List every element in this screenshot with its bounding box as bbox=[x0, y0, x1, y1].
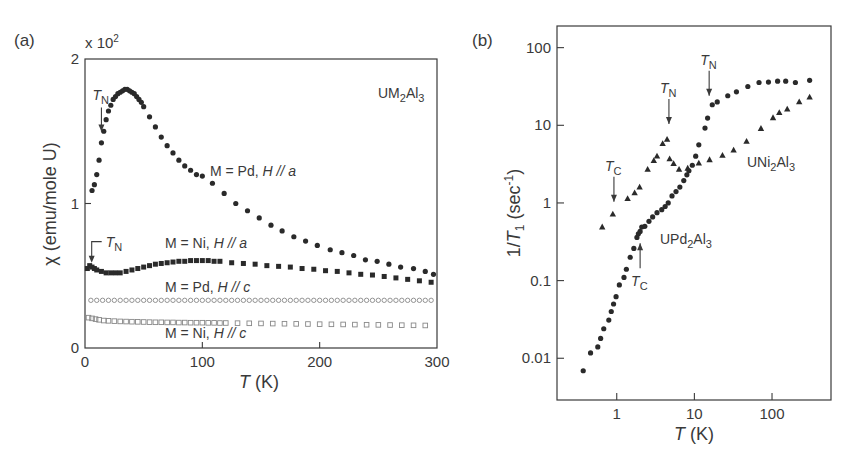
annotation-arrow bbox=[611, 177, 617, 202]
data-point bbox=[108, 103, 113, 108]
upd2al3-base: UPd bbox=[660, 231, 687, 247]
annotation-arrow-head bbox=[666, 117, 672, 124]
series-open-square bbox=[86, 315, 427, 327]
data-point bbox=[696, 142, 701, 147]
data-point bbox=[212, 298, 216, 302]
data-point bbox=[617, 282, 622, 287]
data-point bbox=[206, 258, 211, 263]
data-point bbox=[382, 298, 386, 302]
data-point bbox=[328, 247, 333, 252]
x-tick-label: 300 bbox=[424, 353, 449, 370]
uni2al3-sub2: 3 bbox=[789, 161, 795, 173]
data-point bbox=[218, 298, 222, 302]
data-point bbox=[113, 270, 118, 275]
series-label-pd-c-ital: H // c bbox=[218, 279, 251, 295]
data-point bbox=[423, 323, 428, 328]
annotation-label-sub: C bbox=[640, 280, 648, 292]
compound-mid: Al bbox=[406, 85, 418, 101]
panel-b-ylabel-pre: 1/ bbox=[504, 242, 524, 257]
series-label-ni-c-ital: H // c bbox=[214, 325, 247, 341]
data-point bbox=[681, 178, 686, 183]
series-label-uni2al3: UNi2Al3 bbox=[747, 154, 795, 173]
panel-a-points bbox=[85, 87, 436, 328]
data-point bbox=[621, 275, 626, 280]
data-point bbox=[294, 298, 298, 302]
data-point bbox=[624, 267, 629, 272]
data-point bbox=[188, 258, 193, 263]
data-point bbox=[153, 124, 158, 129]
data-point bbox=[270, 321, 275, 326]
annotation-arrow bbox=[706, 71, 712, 96]
data-point bbox=[177, 298, 181, 302]
data-point bbox=[783, 79, 788, 84]
data-point bbox=[303, 238, 308, 243]
data-point bbox=[375, 259, 380, 264]
data-point bbox=[101, 318, 106, 323]
data-point bbox=[312, 298, 316, 302]
data-point bbox=[94, 172, 99, 177]
y-tick-label: 1 bbox=[71, 195, 79, 212]
data-point bbox=[650, 214, 655, 219]
data-point bbox=[646, 219, 651, 224]
data-point bbox=[106, 319, 111, 324]
data-point bbox=[200, 298, 204, 302]
data-point bbox=[601, 326, 606, 331]
series-label-pd-a-text: M = Pd, bbox=[210, 163, 263, 179]
data-point bbox=[171, 260, 176, 265]
data-point bbox=[194, 172, 199, 177]
data-point bbox=[588, 350, 593, 355]
data-point bbox=[329, 298, 333, 302]
series-label-ni-a-text: M = Ni, bbox=[165, 235, 214, 251]
data-point bbox=[705, 115, 710, 120]
data-point bbox=[183, 298, 187, 302]
data-point bbox=[159, 134, 164, 139]
uni2al3-mid: Al bbox=[776, 154, 788, 170]
data-point bbox=[245, 208, 250, 213]
series-label-pd-a-ital: H // a bbox=[263, 163, 297, 179]
data-point bbox=[715, 99, 720, 104]
data-point bbox=[124, 269, 129, 274]
data-point bbox=[758, 125, 764, 131]
panel-a-xlabel: T (K) bbox=[239, 372, 279, 392]
data-point bbox=[411, 266, 416, 271]
data-point bbox=[394, 298, 398, 302]
data-point bbox=[235, 298, 239, 302]
data-point bbox=[400, 298, 404, 302]
series-label-ni-a-ital: H // a bbox=[214, 235, 248, 251]
panel-b-xlabel: T (K) bbox=[674, 424, 714, 444]
series-label-pd-a: M = Pd, H // a bbox=[210, 163, 296, 179]
data-point bbox=[400, 323, 405, 328]
panel-a: (a) x 102 0100200300012 TNTN UM2Al3 M = … bbox=[14, 31, 450, 392]
annotation-arrow-head bbox=[706, 89, 712, 96]
data-point bbox=[423, 298, 427, 302]
data-point bbox=[118, 298, 122, 302]
data-point bbox=[141, 298, 145, 302]
data-point bbox=[306, 298, 310, 302]
data-point bbox=[359, 298, 363, 302]
data-point bbox=[147, 320, 152, 325]
annotation-label: TC bbox=[605, 158, 622, 177]
series-label-pd-c-text: M = Pd, bbox=[165, 279, 218, 295]
panel-b-ylabel-exp: -1 bbox=[502, 174, 516, 185]
y-tick-label: 1 bbox=[543, 194, 551, 211]
data-point bbox=[581, 368, 586, 373]
data-point bbox=[690, 163, 695, 168]
y-tick-label: 0.01 bbox=[522, 349, 551, 366]
data-point bbox=[153, 262, 158, 267]
data-point bbox=[770, 114, 776, 120]
panel-a-ylabel: χ (emu/mole U) bbox=[40, 142, 60, 265]
data-point bbox=[212, 259, 217, 264]
data-point bbox=[176, 158, 181, 163]
data-point bbox=[429, 298, 433, 302]
data-point bbox=[393, 275, 398, 280]
data-point bbox=[706, 156, 712, 162]
data-point bbox=[136, 298, 140, 302]
data-point bbox=[376, 298, 380, 302]
data-point bbox=[323, 298, 327, 302]
annotation-arrow-head bbox=[637, 243, 643, 250]
y-tick-label: 0.1 bbox=[530, 272, 551, 289]
panel-b-label: (b) bbox=[472, 31, 493, 50]
data-point bbox=[241, 298, 245, 302]
data-point bbox=[294, 322, 299, 327]
series-label-ni-a: M = Ni, H // a bbox=[165, 235, 247, 251]
